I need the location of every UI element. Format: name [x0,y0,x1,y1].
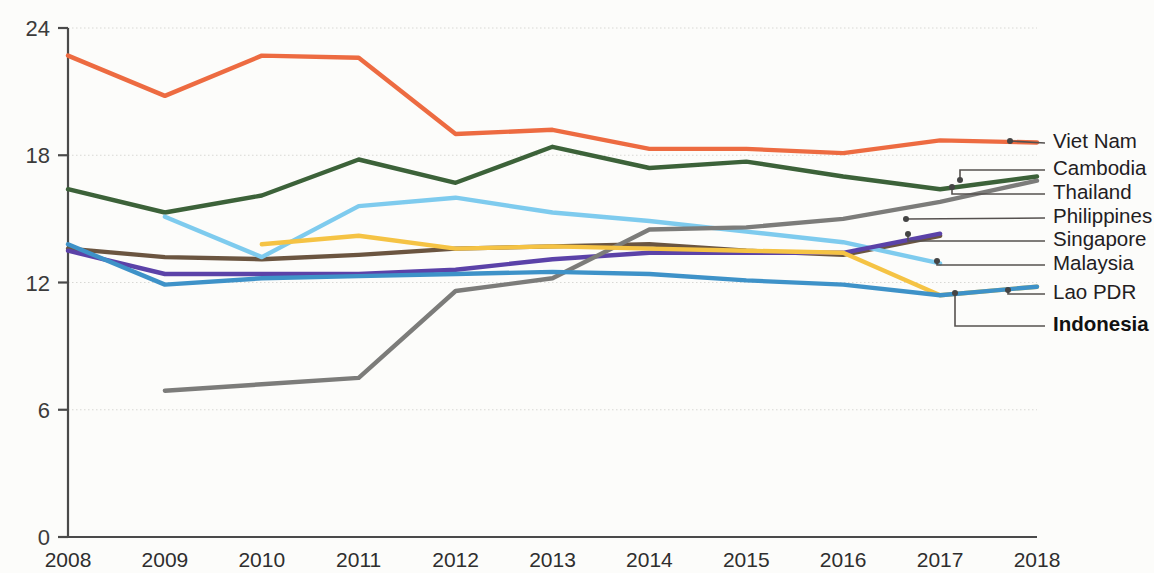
legend-leader-line [955,293,1045,326]
x-tick-label: 2014 [626,548,673,571]
x-tick-label: 2016 [820,548,867,571]
line-chart: 0612182420082009201020112012201320142015… [0,0,1154,573]
legend-leader-dot [1005,287,1011,293]
legend-label-indonesia[interactable]: Indonesia [1053,312,1149,335]
legend-leader-dot [905,231,911,237]
x-tick-label: 2010 [238,548,285,571]
x-tick-label: 2008 [45,548,92,571]
legend-label-singapore[interactable]: Singapore [1053,227,1146,250]
legend-leader-line [937,261,1045,265]
x-tick-label: 2009 [142,548,189,571]
legend-leader-line [906,218,1045,219]
legend-label-malaysia[interactable]: Malaysia [1053,251,1134,274]
x-tick-label: 2011 [336,548,381,571]
y-tick-label: 12 [26,271,50,296]
x-tick-label: 2018 [1014,548,1061,571]
legend-label-cambodia[interactable]: Cambodia [1053,156,1147,179]
legend-label-lao-pdr[interactable]: Lao PDR [1053,280,1136,303]
legend-leader-dot [1007,138,1013,144]
legend-leader-dot [952,290,958,296]
x-tick-label: 2017 [917,548,964,571]
x-tick-label: 2012 [432,548,479,571]
y-tick-label: 24 [26,16,50,41]
y-tick-label: 6 [38,398,50,423]
legend-leader-dot [903,216,909,222]
series-line-cambodia [68,147,1037,213]
legend-label-philippines[interactable]: Philippines [1053,204,1152,227]
x-tick-label: 2015 [723,548,770,571]
series-line-viet-nam [68,56,1037,154]
legend-leader-dot [934,258,940,264]
legend-leader-dot [949,184,955,190]
y-tick-label: 0 [38,525,50,550]
legend-leader-dot [957,177,963,183]
x-tick-label: 2013 [529,548,576,571]
legend-label-thailand[interactable]: Thailand [1053,180,1132,203]
series-line-malaysia [165,181,1037,391]
chart-canvas: 0612182420082009201020112012201320142015… [0,0,1154,573]
legend-label-viet-nam[interactable]: Viet Nam [1053,129,1137,152]
y-tick-label: 18 [26,143,50,168]
